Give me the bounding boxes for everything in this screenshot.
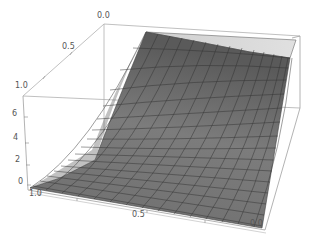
surface-plot: 0.0 0.5 1.0 6 4 2 0 1.0 0.5 0.0 (0, 0, 310, 240)
z-tick-4: 4 (13, 133, 18, 142)
y-tick-0.0: 0.0 (97, 11, 110, 20)
y-tick-1.0: 1.0 (15, 81, 28, 90)
x-tick-0.5: 0.5 (132, 210, 145, 219)
x-tick-0.0: 0.0 (250, 219, 263, 228)
surface (30, 32, 296, 228)
z-tick-0: 0 (18, 177, 23, 186)
y-tick-0.5: 0.5 (62, 42, 75, 51)
x-tick-1.0: 1.0 (29, 189, 42, 198)
z-tick-6: 6 (12, 109, 17, 118)
z-tick-2: 2 (15, 155, 20, 164)
